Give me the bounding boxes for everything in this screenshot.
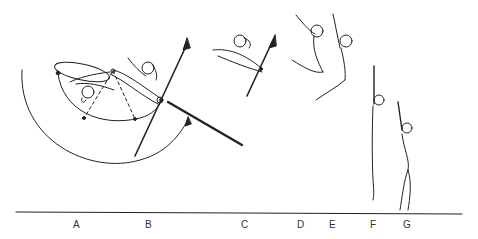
arrowhead-icon: [183, 38, 190, 50]
gymnast-figure-f: [372, 66, 384, 200]
floor-label-b: B: [145, 219, 152, 230]
floor-label-g: G: [403, 219, 411, 230]
gymnast-figure-b: [110, 58, 163, 104]
gymnast-sequence-diagram: [0, 0, 478, 239]
floor-label-f: F: [370, 219, 376, 230]
gymnast-figure-g: [398, 102, 412, 210]
force-vector-b: [135, 44, 187, 156]
floor-label-a: A: [73, 219, 80, 230]
floor-label-c: C: [241, 219, 248, 230]
floor-line: [16, 212, 462, 214]
floor-label-e: E: [329, 219, 336, 230]
gymnast-figure-d: [292, 15, 323, 72]
arrowhead-icon: [185, 117, 191, 126]
gymnast-figure-a: [53, 58, 114, 102]
horizontal-bar: [168, 102, 242, 145]
arrowhead-icon: [269, 35, 276, 48]
gymnast-figure-c: [213, 35, 263, 72]
dashed-radius: [84, 71, 113, 118]
floor-label-d: D: [297, 219, 304, 230]
